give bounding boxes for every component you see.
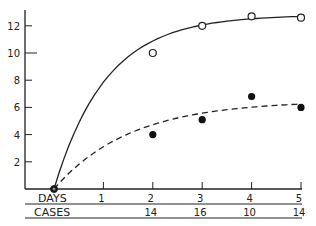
y-tick-label: 4 [14, 130, 20, 141]
data-table: DAYS CASES [34, 192, 70, 219]
y-tick-label: 8 [14, 75, 20, 86]
open-circle-marker [199, 22, 206, 29]
cases-value: 14 [144, 207, 157, 218]
cases-value: 14 [293, 207, 306, 218]
y-tick-label: 2 [14, 157, 20, 168]
cases-value: 16 [194, 207, 207, 218]
origin-marker-center [53, 188, 56, 191]
filled-circle-marker [248, 93, 255, 100]
curves [54, 16, 301, 189]
cases-row-label: CASES [34, 206, 70, 219]
open-circle-marker [248, 13, 255, 20]
solid-curve [54, 16, 301, 189]
filled-circle-marker [149, 131, 156, 138]
x-tick-label: 3 [197, 193, 203, 204]
filled-circle-marker [199, 116, 206, 123]
y-tick-label: 12 [7, 21, 20, 32]
x-tick-label: 5 [296, 193, 302, 204]
x-tick-label: 2 [148, 193, 154, 204]
days-row-label: DAYS [38, 192, 67, 205]
chart: 246810121234514161014 DAYS CASES [0, 0, 316, 226]
filled-circle-marker [297, 104, 304, 111]
y-tick-label: 6 [14, 102, 20, 113]
x-tick-label: 4 [246, 193, 252, 204]
open-circle-marker [298, 14, 305, 21]
dashed-curve [54, 104, 301, 189]
chart-svg: 246810121234514161014 DAYS CASES [0, 0, 316, 226]
y-tick-label: 10 [7, 48, 20, 59]
x-tick-label: 1 [98, 193, 104, 204]
markers [51, 13, 305, 193]
cases-value: 10 [243, 207, 256, 218]
open-circle-marker [149, 50, 156, 57]
